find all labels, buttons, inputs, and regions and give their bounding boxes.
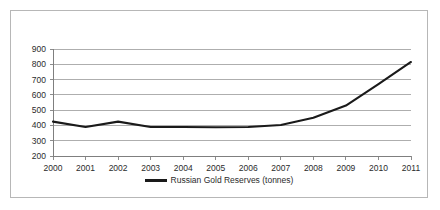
x-axis-tick-label: 2001 [76, 163, 95, 173]
legend-item-label: Russian Gold Reserves (tonnes) [171, 175, 294, 185]
chart-legend: Russian Gold Reserves (tonnes) [11, 175, 427, 185]
y-axis-tick-label: 800 [32, 59, 46, 69]
x-axis-tick-label: 2011 [402, 163, 421, 173]
y-axis-tick-label: 200 [32, 151, 46, 161]
line-chart-plot: 200300400500600700800900 200020012002200… [11, 11, 427, 197]
legend-line-swatch [145, 179, 167, 182]
x-axis-tick-label: 2007 [271, 163, 290, 173]
y-axis-tick-label: 700 [32, 75, 46, 85]
x-axis-tick-label: 2010 [369, 163, 388, 173]
y-axis-tick-label: 900 [32, 44, 46, 54]
x-axis-tick-label: 2004 [174, 163, 193, 173]
x-axis-tick-label: 2008 [304, 163, 323, 173]
x-axis-tick-label: 2003 [141, 163, 160, 173]
y-axis-tick-label: 300 [32, 136, 46, 146]
y-axis-tick-labels: 200300400500600700800900 [32, 44, 46, 161]
x-axis-tick-label: 2002 [109, 163, 128, 173]
y-axis-tick-label: 400 [32, 120, 46, 130]
y-axis-tick-label: 500 [32, 105, 46, 115]
x-axis-tick-label: 2006 [239, 163, 258, 173]
gridlines-group [53, 49, 411, 156]
x-axis-tick-label: 2009 [336, 163, 355, 173]
x-axis-tick-label: 2005 [206, 163, 225, 173]
y-axis-tick-label: 600 [32, 90, 46, 100]
x-axis-tick-labels: 2000200120022003200420052006200720082009… [44, 163, 421, 173]
x-axis-tick-label: 2000 [44, 163, 63, 173]
axis-group [50, 49, 412, 160]
chart-frame: 200300400500600700800900 200020012002200… [10, 10, 428, 198]
